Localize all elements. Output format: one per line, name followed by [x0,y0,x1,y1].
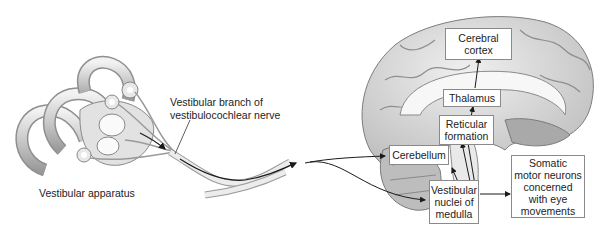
somatic-motor-neurons-box: Somatic motor neurons concerned with eye… [511,155,585,218]
box-line: nuclei of [430,196,478,208]
box-line: medulla [430,208,478,220]
box-line: with eye [512,193,584,205]
vestibular-pathway-diagram: Vestibular apparatus Vestibular branch o… [0,0,601,234]
box-line: Thalamus [444,92,500,104]
vestibular-nuclei-box: Vestibular nuclei of medulla [429,180,479,224]
box-line: concerned [512,181,584,193]
reticular-formation-box: Reticular formation [439,115,494,145]
nerve-label-line2: vestibulocochlear nerve [170,109,280,121]
vestibular-apparatus-illustration [22,62,175,170]
box-line: formation [440,130,493,142]
box-line: Cerebellum [390,149,448,161]
box-line: movements [512,205,584,217]
box-line: Vestibular [430,184,478,196]
cerebellum-box: Cerebellum [389,145,449,165]
vestibulocochlear-nerve-illustration [140,120,296,195]
box-line: Cerebral [446,32,511,44]
vestibular-apparatus-label: Vestibular apparatus [39,187,135,199]
box-line: Reticular [440,118,493,130]
box-line: motor neurons [512,169,584,181]
box-line: Somatic [512,157,584,169]
cerebral-cortex-box: Cerebral cortex [445,28,512,60]
nerve-label-line1: Vestibular branch of [170,96,263,108]
box-line: cortex [446,44,511,56]
thalamus-box: Thalamus [443,89,501,107]
